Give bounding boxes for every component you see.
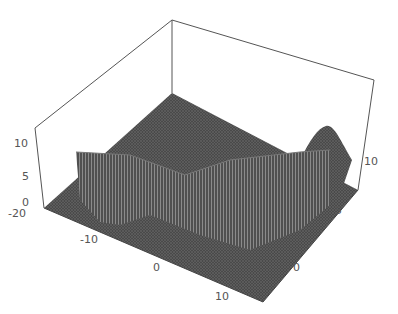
y-tick-5: 5 bbox=[335, 205, 342, 216]
y-tick-10: 10 bbox=[364, 156, 378, 167]
x-tick-minus20: -20 bbox=[8, 208, 26, 219]
z-tick-5: 5 bbox=[22, 171, 29, 182]
x-tick-0: 0 bbox=[153, 262, 160, 273]
z-tick-10: 10 bbox=[14, 138, 28, 149]
x-tick-10: 10 bbox=[215, 291, 229, 302]
y-tick-0: 0 bbox=[293, 262, 300, 273]
surface-plot bbox=[0, 0, 398, 314]
x-tick-minus10: -10 bbox=[80, 234, 98, 245]
